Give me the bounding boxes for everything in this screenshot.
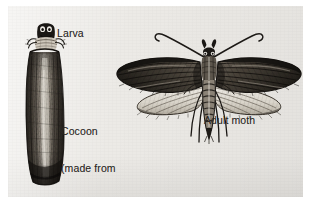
label-cocoon-line1: Cocoon <box>61 125 116 137</box>
label-cocoon: Cocoon (made from clothing) <box>61 100 116 197</box>
illustration-panel: Larva Cocoon (made from clothing) Adult … <box>8 6 303 197</box>
moth-forewing-left <box>116 52 208 96</box>
illustration-page: Larva Cocoon (made from clothing) Adult … <box>0 0 312 207</box>
adult-moth-illustration <box>116 24 302 154</box>
moth-body <box>201 39 217 144</box>
moth-forewing-right <box>210 52 302 96</box>
label-adult-moth: Adult moth <box>204 114 255 126</box>
label-cocoon-line2: (made from <box>61 162 116 174</box>
label-larva: Larva <box>57 27 84 39</box>
